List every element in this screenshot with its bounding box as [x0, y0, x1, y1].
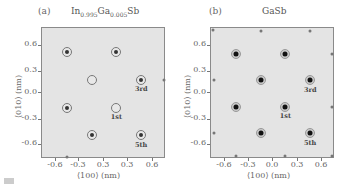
footnote-mark: [4, 178, 14, 184]
y-tick-label: -0.6: [15, 138, 37, 147]
y-axis-label: ⟨010⟩ (nm): [14, 75, 23, 118]
y-tick-label: -0.6: [184, 138, 206, 147]
diffraction-spot-hollow: [87, 75, 97, 85]
y-tick: [207, 92, 210, 93]
order-label-3rd: 3rd: [304, 86, 317, 94]
diffraction-spot: [231, 102, 241, 112]
diffraction-spot-1st-hollow: [111, 103, 121, 113]
panel-b-label: (b): [209, 6, 222, 16]
plot-area-b: 3rd 1st 5th: [210, 27, 334, 158]
edge-spot: [331, 105, 334, 108]
order-label-1st: 1st: [280, 112, 291, 120]
y-tick: [207, 119, 210, 120]
diffraction-spot: [280, 49, 290, 59]
diffraction-spot-3rd: [136, 75, 146, 85]
x-tick-label: 0.3: [91, 160, 115, 169]
diffraction-spot-3rd: [305, 75, 315, 85]
x-tick-label: 0.6: [309, 160, 333, 169]
y-tick: [38, 71, 41, 72]
panel-a-title: In0.995Ga0.005Sb: [71, 6, 139, 18]
edge-spot: [331, 155, 334, 158]
edge-spot: [331, 53, 334, 56]
edge-spot: [213, 131, 216, 134]
x-axis-label: ⟨100⟩ (nm): [247, 171, 290, 180]
y-tick-label: 0.3: [184, 65, 206, 74]
diffraction-spot-1st: [280, 102, 290, 112]
panel-b-title: GaSb: [262, 6, 286, 16]
order-label-1st: 1st: [111, 113, 122, 121]
y-tick-label: 0.6: [15, 39, 37, 48]
x-axis-label: ⟨100⟩ (nm): [77, 171, 120, 180]
panel-a-label: (a): [38, 6, 50, 16]
panel-b: (b) GaSb 3rd 1st 5th 0.6 0.3 0.0 -0.3 -0…: [171, 0, 342, 186]
y-tick: [38, 45, 41, 46]
panel-a: (a) In0.995Ga0.005Sb 3rd 1st 5th 0.6 0.3…: [0, 0, 171, 186]
edge-spot: [284, 155, 287, 158]
y-tick-label: 0.6: [184, 39, 206, 48]
edge-spot: [235, 155, 238, 158]
x-tick-label: 0.3: [115, 160, 139, 169]
y-axis-label: ⟨010⟩ (nm): [183, 75, 192, 118]
diffraction-spot: [231, 49, 241, 59]
x-tick-label: -0.3: [236, 160, 260, 169]
x-tick-label: -0.3: [66, 160, 90, 169]
edge-spot: [213, 79, 216, 82]
diffraction-spot: [62, 103, 72, 113]
x-tick-label: 0.6: [140, 160, 164, 169]
edge-spot: [309, 30, 312, 33]
x-tick-label: 0.3: [285, 160, 309, 169]
plot-area-a: 3rd 1st 5th: [41, 27, 165, 158]
diffraction-spot: [111, 47, 121, 57]
diffraction-spot: [256, 128, 266, 138]
edge-spot: [163, 78, 166, 81]
y-tick: [207, 71, 210, 72]
y-tick-label: 0.3: [15, 65, 37, 74]
order-label-5th: 5th: [304, 139, 316, 147]
order-label-5th: 5th: [135, 141, 147, 149]
y-tick: [38, 144, 41, 145]
y-tick: [38, 92, 41, 93]
diffraction-spot: [62, 47, 72, 57]
y-tick: [207, 144, 210, 145]
diffraction-spot-5th: [136, 130, 146, 140]
order-label-3rd: 3rd: [135, 85, 148, 93]
y-tick: [207, 45, 210, 46]
x-tick-label: -0.6: [43, 160, 67, 169]
x-tick-label: 0.0: [260, 160, 284, 169]
edge-spot: [212, 29, 215, 32]
diffraction-spot-5th: [305, 128, 315, 138]
y-tick: [38, 119, 41, 120]
edge-spot: [66, 156, 69, 159]
edge-spot: [259, 30, 262, 33]
x-tick-label: -0.6: [212, 160, 236, 169]
diffraction-spot: [256, 75, 266, 85]
diffraction-spot: [87, 130, 97, 140]
